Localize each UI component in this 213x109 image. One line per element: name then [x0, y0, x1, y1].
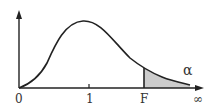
- y-axis-arrow-icon: [16, 10, 22, 19]
- label-origin: 0: [15, 92, 23, 106]
- density-curve: [19, 21, 190, 88]
- x-axis-arrow-icon: [195, 85, 204, 91]
- label-one: 1: [86, 92, 94, 106]
- label-alpha: α: [183, 62, 193, 78]
- label-infinity: ∞: [193, 92, 203, 106]
- label-critical-f: F: [140, 92, 148, 106]
- f-distribution-diagram: 0 1 F ∞ α: [0, 0, 213, 109]
